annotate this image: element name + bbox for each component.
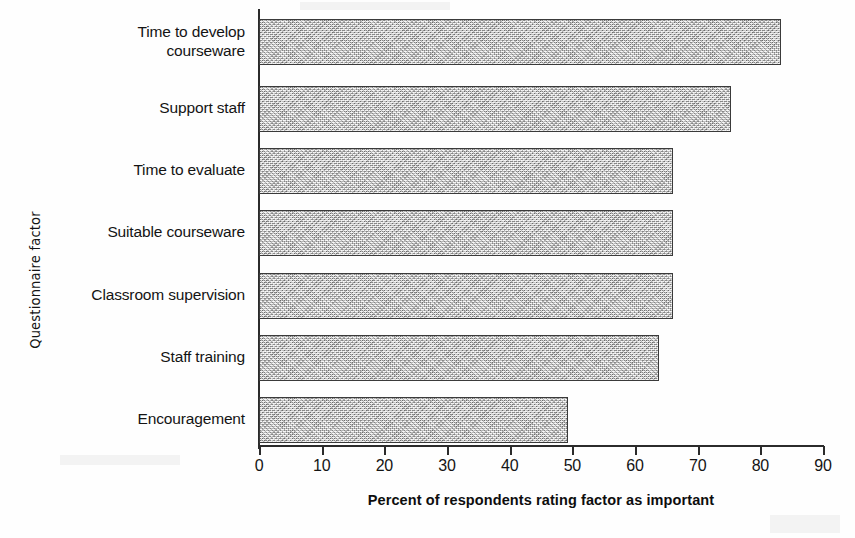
scan-artifact (60, 455, 180, 465)
bar[interactable] (259, 397, 568, 443)
x-axis-tick-label: 50 (552, 457, 592, 475)
bar[interactable] (259, 335, 659, 381)
x-axis-tick (760, 446, 762, 455)
x-axis-tick-label: 60 (615, 457, 655, 475)
x-axis-tick (698, 446, 700, 455)
scan-artifact (770, 515, 840, 533)
y-axis-tick-label: Encouragement (0, 410, 245, 429)
scan-artifact (300, 2, 450, 10)
x-axis-tick-label: 40 (490, 457, 530, 475)
x-axis-tick-label: 70 (678, 457, 718, 475)
x-axis-tick (510, 446, 512, 455)
x-axis-tick-label: 10 (302, 457, 342, 475)
y-axis-tick-label: Suitable courseware (0, 223, 245, 242)
y-axis-title: Questionnaire factor (27, 150, 43, 410)
bar[interactable] (259, 86, 731, 132)
bar[interactable] (259, 19, 781, 65)
x-axis-tick-label: 90 (803, 457, 843, 475)
y-axis-tick-label: Time to develop courseware (0, 23, 245, 60)
y-axis-tick-label: Time to evaluate (0, 161, 245, 180)
bar[interactable] (259, 273, 673, 319)
x-axis-tick (322, 446, 324, 455)
x-axis-tick (259, 446, 261, 455)
x-axis-tick (384, 446, 386, 455)
x-axis-tick-label: 80 (740, 457, 780, 475)
x-axis-tick-label: 0 (239, 457, 279, 475)
plot-area (259, 10, 823, 446)
chart-page: Questionnaire factor Time to develop cou… (0, 0, 855, 538)
y-axis-tick-label: Support staff (0, 99, 245, 118)
x-axis-tick (635, 446, 637, 455)
x-axis-tick-label: 30 (427, 457, 467, 475)
y-axis-tick-label: Classroom supervision (0, 286, 245, 305)
x-axis-title: Percent of respondents rating factor as … (259, 492, 823, 508)
bar[interactable] (259, 148, 673, 194)
bar[interactable] (259, 210, 673, 256)
x-axis-tick-label: 20 (364, 457, 404, 475)
x-axis-tick (572, 446, 574, 455)
x-axis-tick (823, 446, 825, 455)
x-axis-tick (447, 446, 449, 455)
y-axis-tick-label: Staff training (0, 348, 245, 367)
